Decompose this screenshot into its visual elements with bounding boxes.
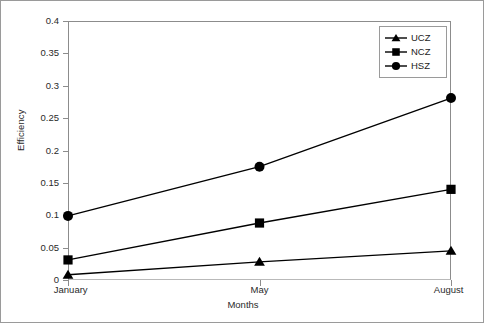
y-tick-mark bbox=[63, 118, 68, 119]
legend-label: NCZ bbox=[411, 47, 431, 57]
y-tick-mark bbox=[63, 215, 68, 216]
y-tick-label: 0.3 bbox=[19, 81, 59, 91]
y-tick-mark bbox=[63, 86, 68, 87]
legend-item-ncz[interactable]: NCZ bbox=[384, 45, 441, 59]
x-tick-mark bbox=[68, 280, 69, 286]
x-tick-mark bbox=[451, 280, 452, 286]
square-marker-icon bbox=[384, 46, 408, 58]
legend-item-ucz[interactable]: UCZ bbox=[384, 31, 441, 45]
y-tick-mark bbox=[63, 151, 68, 152]
y-tick-label: 0.2 bbox=[19, 146, 59, 156]
y-tick-label: 0.15 bbox=[19, 178, 59, 188]
line-chart: Efficiency 00.050.10.150.20.250.30.350.4… bbox=[0, 0, 484, 323]
y-tick-label: 0.35 bbox=[19, 49, 59, 59]
x-tick-label: August bbox=[434, 284, 464, 295]
y-tick-mark bbox=[63, 53, 68, 54]
y-tick-mark bbox=[63, 21, 68, 22]
x-axis-title: Months bbox=[1, 299, 484, 310]
y-tick-label: 0.25 bbox=[19, 113, 59, 123]
y-tick-label: 0.4 bbox=[19, 16, 59, 26]
x-tick-label: January bbox=[54, 284, 88, 295]
legend-label: HSZ bbox=[411, 61, 430, 71]
y-tick-label: 0.05 bbox=[19, 243, 59, 253]
y-tick-mark bbox=[63, 248, 68, 249]
y-tick-mark bbox=[63, 183, 68, 184]
legend-item-hsz[interactable]: HSZ bbox=[384, 59, 441, 73]
circle-marker-icon bbox=[384, 60, 408, 72]
legend: UCZNCZHSZ bbox=[379, 26, 447, 78]
triangle-marker-icon bbox=[384, 32, 408, 44]
y-tick-label: 0.1 bbox=[19, 211, 59, 221]
legend-label: UCZ bbox=[411, 33, 431, 43]
x-tick-mark bbox=[260, 280, 261, 286]
